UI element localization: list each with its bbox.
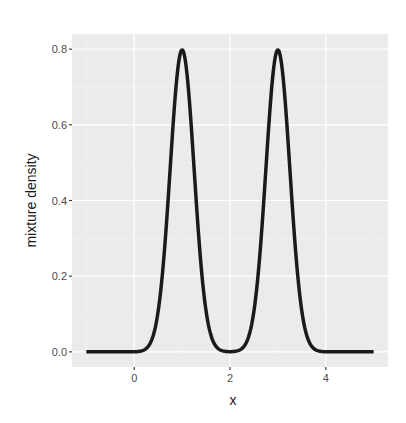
y-axis-title: mixture density — [23, 153, 39, 247]
y-axis: 0.00.20.40.60.8 — [52, 43, 72, 358]
y-tick-label: 0.4 — [52, 195, 67, 207]
x-axis-title: x — [230, 392, 237, 408]
x-tick-label: 4 — [323, 372, 329, 384]
density-chart: 0.00.20.40.60.8 024 x mixture density — [0, 0, 406, 423]
y-tick-label: 0.8 — [52, 43, 67, 55]
y-tick-label: 0.0 — [52, 346, 67, 358]
x-axis: 024 — [131, 367, 329, 384]
x-tick-label: 2 — [227, 372, 233, 384]
y-tick-label: 0.6 — [52, 119, 67, 131]
x-tick-label: 0 — [131, 372, 137, 384]
y-tick-label: 0.2 — [52, 270, 67, 282]
